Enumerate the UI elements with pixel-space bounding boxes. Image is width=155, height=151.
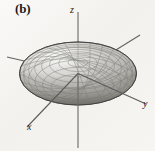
x-axis-label: x: [27, 122, 31, 132]
figure-panel-b: (b): [0, 0, 155, 151]
y-axis-label: y: [143, 99, 147, 109]
ellipsoid-scene: [0, 0, 155, 151]
z-axis-label: z: [70, 5, 74, 15]
